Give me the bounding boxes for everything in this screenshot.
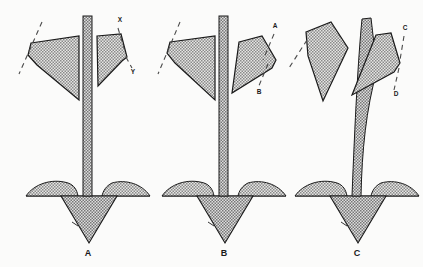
annotation-a: A [273,22,278,29]
panel-label-b: B [221,248,228,258]
annotation-x: X [118,16,123,23]
panel-label-a: A [85,248,92,258]
annotation-d: D [394,90,399,97]
stem-a [83,16,92,196]
annotation-y: Y [131,68,136,75]
annotation-c: C [403,24,408,31]
figure-container: X Y A A B B [0,0,423,267]
figure-svg: X Y A A B B [0,0,423,267]
annotation-b: B [257,88,262,95]
panel-label-c: C [354,248,361,258]
stem-b [219,16,228,196]
